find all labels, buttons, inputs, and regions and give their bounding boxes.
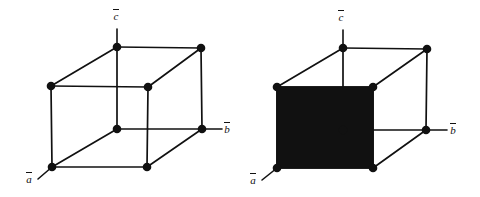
left-axis-label-b-glyph: b [224, 124, 230, 135]
left-vertex-bottom-front-left [48, 163, 57, 172]
left-edge-depth-bottom-right [147, 129, 202, 167]
right-vertex-top-back-right [423, 45, 432, 54]
right-vertex-top-back-left [339, 44, 348, 53]
right-edge-depth-bottom-right [373, 130, 426, 168]
left-axis-label-a: a [26, 172, 32, 185]
left-edge-back-right [201, 48, 202, 129]
left-edge-front-top [51, 86, 148, 87]
left-edge-front-left [51, 86, 52, 167]
right-vertex-bottom-back-left [339, 126, 348, 135]
right-axis-label-a: a [250, 173, 256, 186]
right-edge-depth-top-left [277, 48, 343, 87]
crystal-unit-cell-figure: c b a c b a [0, 0, 480, 197]
right-edge-depth-top-right [373, 49, 427, 87]
left-axis-label-c-glyph: c [113, 11, 119, 22]
right-axis-label-c-glyph: c [338, 12, 344, 23]
left-cell-edges [51, 47, 202, 167]
right-vertex-top-front-right [369, 83, 378, 92]
right-axis-label-b: b [450, 123, 456, 136]
left-vertex-top-front-left [47, 82, 56, 91]
left-edge-front-right [147, 87, 148, 167]
left-unit-cell [38, 29, 222, 179]
right-cell-shaded-front-face [277, 87, 373, 168]
right-edge-back-right [426, 49, 427, 130]
right-unit-cell [262, 30, 447, 180]
left-vertex-top-front-right [144, 83, 153, 92]
left-edge-depth-top-left [51, 47, 117, 86]
left-edge-depth-top-right [148, 48, 201, 87]
left-vertex-top-back-right [197, 44, 206, 53]
right-edge-back-top [343, 48, 427, 49]
right-axis-label-c: c [338, 10, 344, 23]
right-axis-label-b-glyph: b [450, 125, 456, 136]
right-vertex-bottom-back-right [422, 126, 431, 135]
left-edge-depth-bottom-left [52, 129, 117, 167]
left-axis-label-b: b [224, 122, 230, 135]
left-axis-label-c: c [113, 9, 119, 22]
left-axis-label-a-glyph: a [26, 174, 32, 185]
right-axis-label-a-glyph: a [250, 175, 256, 186]
left-vertex-top-back-left [113, 43, 122, 52]
right-vertex-bottom-front-right [369, 164, 378, 173]
right-vertex-bottom-front-left [273, 164, 282, 173]
left-axis-lines [38, 29, 222, 179]
left-edge-back-top [117, 47, 201, 48]
left-vertex-bottom-front-right [143, 163, 152, 172]
unit-cell-svg [0, 0, 480, 197]
left-vertex-bottom-back-left [113, 125, 122, 134]
right-vertex-top-front-left [273, 83, 282, 92]
left-vertex-bottom-back-right [198, 125, 207, 134]
